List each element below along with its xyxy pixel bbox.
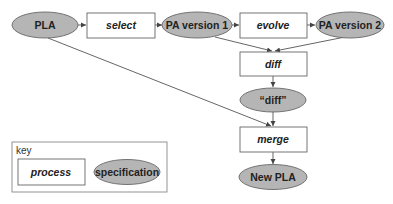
node-pla-label: PLA (35, 19, 56, 31)
node-merge: merge (240, 127, 307, 152)
diagram-canvas: PLA select PA version 1 evolve PA versio… (0, 0, 393, 204)
node-pla: PLA (12, 12, 78, 38)
node-pa-version-1-label: PA version 1 (166, 19, 229, 31)
node-diff-specification-label: “diff” (260, 94, 287, 106)
node-pa-version-1: PA version 1 (162, 12, 232, 38)
edge-pla-merge (48, 38, 271, 126)
node-select: select (87, 13, 155, 38)
node-select-label: select (106, 19, 136, 31)
node-diff-specification: “diff” (240, 88, 306, 112)
node-merge-label: merge (257, 133, 289, 145)
node-pa-version-2: PA version 2 (316, 12, 384, 38)
legend-specification-label: specification (95, 166, 159, 178)
node-pa-version-2-label: PA version 2 (319, 19, 382, 31)
node-new-pla-label: New PLA (250, 171, 296, 183)
edge-pav1-diff (215, 37, 272, 51)
legend: key process specification (12, 142, 167, 192)
node-diff-process-label: diff (265, 58, 283, 70)
legend-title: key (16, 145, 32, 156)
node-new-pla: New PLA (239, 165, 307, 190)
legend-process-label: process (30, 166, 71, 178)
node-evolve-label: evolve (257, 19, 290, 31)
edge-pav2-diff (275, 37, 345, 51)
node-diff-process: diff (240, 52, 307, 76)
node-evolve: evolve (240, 13, 307, 38)
